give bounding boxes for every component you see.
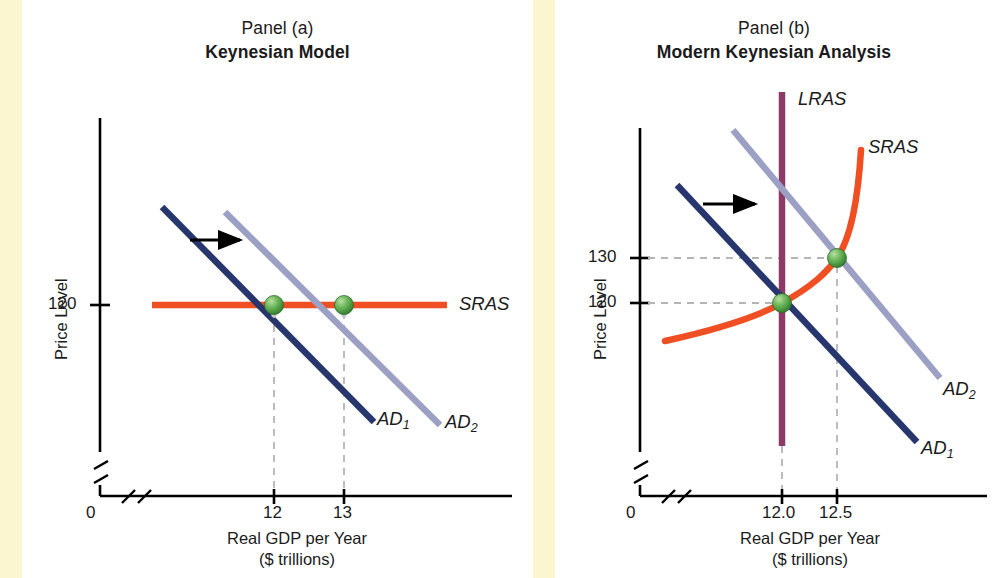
panel-b-x-axis-label-line1: Real GDP per Year (685, 529, 935, 548)
panel-b-label-ad1-sub: 1 (947, 447, 954, 461)
panel-b-equilibrium-point-2 (828, 249, 847, 268)
page-margin-left (0, 0, 22, 578)
panel-a-label-ad1: AD1 (377, 408, 410, 430)
panel-a-ytick-label-120: 120 (48, 294, 76, 314)
panel-b-y-axis-break (634, 461, 648, 483)
panel-a-xtick-label-12: 12 (263, 503, 282, 523)
panel-b-label-ad1-text: AD (921, 437, 947, 458)
panel-b-plot (555, 0, 993, 578)
panel-b-label-ad2-text: AD (943, 378, 969, 399)
panel-b-label-ad2: AD2 (943, 378, 976, 400)
panel-a-label-ad2-sub: 2 (471, 421, 478, 435)
panel-b-label-sras: SRAS (868, 136, 918, 158)
panel-a-label-ad1-sub: 1 (403, 418, 410, 432)
panel-gutter (533, 0, 555, 578)
panel-a-xtick-label-13: 13 (333, 503, 352, 523)
panel-a-origin-label: 0 (86, 503, 95, 523)
panel-b-ytick-label-120: 120 (588, 292, 616, 312)
panel-a: Panel (a) Keynesian Model (22, 0, 533, 578)
panel-a-label-sras: SRAS (459, 293, 509, 315)
panel-b-x-axis-label-line2: ($ trillions) (685, 550, 935, 569)
panel-a-plot (22, 0, 533, 578)
panel-b-ytick-label-130: 130 (588, 247, 616, 267)
panel-b-label-lras: LRAS (798, 88, 846, 110)
economics-figure: Panel (a) Keynesian Model (0, 0, 993, 578)
panel-a-x-axis-label-line2: ($ trillions) (172, 550, 422, 569)
panel-a-y-axis-label: Price Level (52, 278, 71, 360)
panel-b-xtick-label-12-5: 12.5 (819, 503, 852, 523)
panel-b-y-axis-label: Price Level (591, 278, 610, 360)
panel-a-equilibrium-point-2 (335, 296, 354, 319)
panel-a-label-ad1-text: AD (377, 408, 403, 429)
panel-b-curve-ad1 (677, 185, 917, 442)
panel-b-origin-label: 0 (626, 503, 635, 523)
panel-b-label-ad1: AD1 (921, 437, 954, 459)
panel-b-equilibrium-point-1 (773, 294, 792, 313)
panel-a-y-axis-break (94, 461, 108, 483)
panel-a-label-ad2-text: AD (445, 411, 471, 432)
panel-b-label-ad2-sub: 2 (969, 388, 976, 402)
panel-b-xtick-label-12-0: 12.0 (762, 503, 795, 523)
panel-b: Panel (b) Modern Keynesian Analysis (555, 0, 993, 578)
panel-a-label-ad2: AD2 (445, 411, 478, 433)
panel-a-x-axis-label-line1: Real GDP per Year (172, 529, 422, 548)
panel-a-curve-ad2 (225, 212, 440, 425)
